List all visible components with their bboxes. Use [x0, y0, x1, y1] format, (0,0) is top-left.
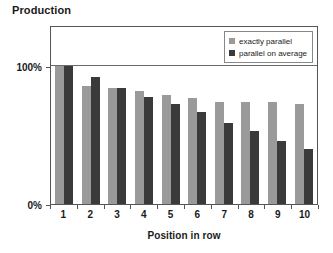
bar-group — [157, 25, 184, 204]
x-tick-label: 3 — [104, 209, 131, 225]
legend-item: parallel on average — [229, 47, 307, 59]
y-tick-label: 100% — [16, 62, 42, 73]
bar — [55, 66, 64, 204]
bar — [117, 88, 126, 204]
bar-group — [184, 25, 211, 204]
legend-label: parallel on average — [239, 49, 307, 58]
bar — [135, 91, 144, 204]
bar — [215, 102, 224, 204]
legend-swatch-icon — [229, 38, 235, 44]
legend-swatch-icon — [229, 50, 235, 56]
bar — [250, 131, 259, 204]
bar — [91, 77, 100, 204]
bar — [277, 141, 286, 204]
x-tick-label: 5 — [157, 209, 184, 225]
x-axis-title: Position in row — [50, 230, 318, 241]
x-tick-label: 9 — [264, 209, 291, 225]
bar — [144, 97, 153, 204]
x-tick-label: 4 — [130, 209, 157, 225]
bar — [224, 123, 233, 204]
bar — [197, 112, 206, 204]
chart-legend: exactly parallelparallel on average — [224, 31, 313, 63]
bar — [64, 66, 73, 204]
bar — [268, 102, 277, 204]
x-tick-label: 1 — [50, 209, 77, 225]
bar — [82, 86, 91, 204]
x-tick-label: 6 — [184, 209, 211, 225]
x-tick-mark — [318, 205, 319, 209]
bar — [304, 149, 313, 204]
bar-group — [51, 25, 78, 204]
legend-label: exactly parallel — [239, 37, 292, 46]
x-tick-label: 10 — [291, 209, 318, 225]
gridline-100 — [51, 65, 317, 66]
x-axis-labels: 12345678910 — [50, 209, 318, 225]
bar — [162, 95, 171, 204]
bar — [171, 104, 180, 205]
bar — [108, 88, 117, 204]
bar — [188, 98, 197, 204]
bar — [241, 102, 250, 204]
bar-group — [78, 25, 105, 204]
y-tick-label: 0% — [28, 200, 42, 211]
bar-group — [104, 25, 131, 204]
x-tick-label: 7 — [211, 209, 238, 225]
bar-group — [131, 25, 158, 204]
y-axis: 0%100% — [0, 0, 50, 253]
x-tick-label: 2 — [77, 209, 104, 225]
x-tick-label: 8 — [238, 209, 265, 225]
legend-item: exactly parallel — [229, 35, 307, 47]
bar — [295, 104, 304, 205]
